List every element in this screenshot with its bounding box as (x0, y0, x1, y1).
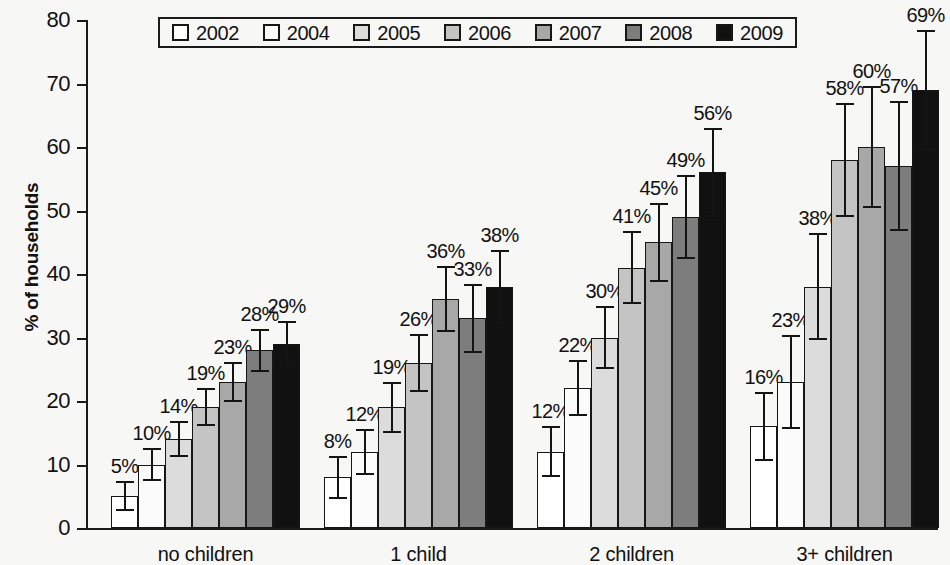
error-bar-stem (712, 128, 714, 217)
y-axis-tick (77, 274, 86, 276)
legend-item-label: 2005 (377, 23, 420, 43)
y-axis-tick (77, 528, 86, 530)
error-bar (755, 392, 773, 461)
error-bar-stem (925, 30, 927, 151)
error-bar (569, 360, 587, 416)
error-bar (356, 429, 374, 475)
y-axis-line (86, 20, 88, 528)
y-axis-tick (77, 20, 86, 22)
error-bar (596, 306, 614, 370)
error-bar-stem (817, 233, 819, 340)
bar (912, 90, 939, 528)
legend-swatch-icon (716, 24, 733, 41)
error-bar (782, 335, 800, 429)
error-bar-stem (550, 426, 552, 477)
bar (273, 344, 300, 528)
error-bar (197, 388, 215, 426)
error-bar (491, 250, 509, 324)
error-bar-stem (286, 321, 288, 367)
legend-item-2009[interactable]: 2009 (716, 23, 783, 43)
y-axis-tick (77, 401, 86, 403)
error-bar-cap-bottom (464, 351, 482, 353)
x-axis-category-label: 1 child (329, 544, 509, 564)
error-bar-cap-bottom (863, 206, 881, 208)
error-bar (917, 30, 935, 151)
error-bar-stem (178, 421, 180, 457)
y-axis-tick-label: 50 (30, 200, 70, 222)
error-bar (383, 382, 401, 433)
legend-item-2002[interactable]: 2002 (172, 23, 239, 43)
error-bar-stem (232, 362, 234, 403)
error-bar (650, 203, 668, 282)
error-bar-stem (151, 448, 153, 481)
error-bar-cap-bottom (329, 497, 347, 499)
y-axis-tick-label: 60 (30, 136, 70, 158)
x-axis-category-label: no children (116, 544, 296, 564)
error-bar-stem (763, 392, 765, 461)
error-bar-cap-bottom (437, 330, 455, 332)
error-bar-cap-bottom (650, 280, 668, 282)
legend-item-label: 2009 (740, 23, 783, 43)
y-axis-tick-label: 20 (30, 390, 70, 412)
error-bar-stem (472, 284, 474, 353)
error-bar-stem (577, 360, 579, 416)
y-axis-tick-label: 80 (30, 9, 70, 31)
x-axis-category-label: 3+ children (755, 544, 935, 564)
error-bar-cap-bottom (623, 302, 641, 304)
error-bar-stem (391, 382, 393, 433)
legend-item-2007[interactable]: 2007 (535, 23, 602, 43)
error-bar (143, 448, 161, 481)
bar (219, 382, 246, 528)
bar-value-label: 29% (259, 296, 315, 316)
error-bar (278, 321, 296, 367)
legend-swatch-icon (263, 24, 280, 41)
legend-item-2008[interactable]: 2008 (625, 23, 692, 43)
error-bar (863, 86, 881, 208)
error-bar-cap-bottom (491, 322, 509, 324)
legend-swatch-icon (625, 24, 642, 41)
error-bar (890, 101, 908, 231)
error-bar-stem (631, 231, 633, 305)
bar (432, 299, 459, 528)
y-axis-tick-label: 10 (30, 454, 70, 476)
error-bar-stem (499, 250, 501, 324)
error-bar (170, 421, 188, 457)
bar-value-label: 38% (472, 225, 528, 245)
bar (699, 172, 726, 528)
error-bar (542, 426, 560, 477)
error-bar-cap-bottom (251, 370, 269, 372)
error-bar (677, 175, 695, 259)
error-bar-cap-bottom (116, 509, 134, 511)
y-axis-tick (77, 465, 86, 467)
legend-item-label: 2006 (468, 23, 511, 43)
x-axis-line (86, 528, 938, 530)
y-axis-tick-label: 0 (30, 517, 70, 539)
legend-swatch-icon (444, 24, 461, 41)
error-bar-cap-bottom (410, 390, 428, 392)
error-bar-stem (124, 481, 126, 511)
legend-item-2005[interactable]: 2005 (353, 23, 420, 43)
legend-item-2006[interactable]: 2006 (444, 23, 511, 43)
y-axis-tick (77, 84, 86, 86)
bar (645, 242, 672, 528)
bar-value-label: 56% (685, 103, 741, 123)
error-bar (623, 231, 641, 305)
bar (672, 217, 699, 528)
error-bar-stem (658, 203, 660, 282)
error-bar (836, 103, 854, 217)
bar (246, 350, 273, 528)
error-bar (464, 284, 482, 353)
error-bar-cap-bottom (755, 459, 773, 461)
error-bar-stem (844, 103, 846, 217)
error-bar-cap-bottom (596, 367, 614, 369)
error-bar-cap-bottom (704, 215, 722, 217)
error-bar-stem (259, 329, 261, 372)
error-bar (410, 334, 428, 392)
error-bar (329, 456, 347, 499)
legend-item-2004[interactable]: 2004 (263, 23, 330, 43)
error-bar-cap-bottom (542, 475, 560, 477)
legend-item-label: 2004 (287, 23, 330, 43)
error-bar-cap-bottom (917, 148, 935, 150)
error-bar (116, 481, 134, 511)
y-axis-tick-label: 40 (30, 263, 70, 285)
